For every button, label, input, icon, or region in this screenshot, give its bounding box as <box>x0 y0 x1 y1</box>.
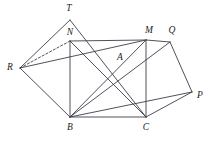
segment-N-M <box>70 40 146 41</box>
vertex-label-b: B <box>67 123 73 133</box>
segment-M-Q <box>146 40 170 42</box>
segment-R-B <box>20 68 70 117</box>
segment-P-C <box>146 92 192 117</box>
geometry-canvas <box>0 0 210 150</box>
segment-R-N <box>20 41 70 68</box>
vertex-label-n: N <box>67 28 74 38</box>
geometry-figure: TNMQRAPBC <box>0 0 210 150</box>
vertex-label-c: C <box>143 123 150 133</box>
vertex-label-t: T <box>66 4 71 14</box>
vertex-label-r: R <box>7 63 13 73</box>
edges-layer <box>20 20 192 117</box>
segment-Q-P <box>170 42 192 92</box>
vertex-label-p: P <box>197 91 203 101</box>
vertex-label-q: Q <box>168 26 175 36</box>
vertex-label-m: M <box>145 26 153 36</box>
segment-B-P <box>70 92 192 117</box>
vertex-label-a: A <box>117 53 123 63</box>
segment-R-T <box>20 20 70 68</box>
